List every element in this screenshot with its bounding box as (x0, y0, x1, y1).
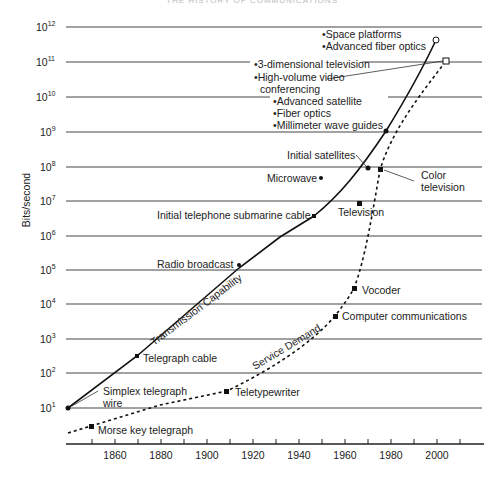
label-radio-broadcast: Radio broadcast (157, 258, 234, 270)
y-axis-labels: 1012 1011 1010 109 108 107 106 105 104 1… (36, 20, 56, 414)
svg-text:1860: 1860 (103, 449, 127, 461)
svg-text:104: 104 (40, 297, 56, 310)
svg-text:1920: 1920 (241, 449, 265, 461)
x-axis-labels: 1860 1880 1900 1920 1940 1960 1980 2000 (103, 449, 449, 461)
label-morse: Morse key telegraph (98, 424, 193, 436)
label-television-2: television (421, 181, 465, 193)
svg-text:1011: 1011 (36, 55, 55, 68)
label-fiber-optics: •Fiber optics (273, 107, 331, 119)
svg-text:101: 101 (40, 401, 56, 414)
transmission-capability-curve (68, 40, 436, 408)
svg-text:2000: 2000 (425, 449, 449, 461)
svg-text:1880: 1880 (149, 449, 173, 461)
svg-text:1940: 1940 (287, 449, 311, 461)
label-submarine-cable: Initial telephone submarine cable (157, 209, 311, 221)
label-initial-satellites: Initial satellites (287, 149, 355, 161)
label-microwave: Microwave (267, 172, 317, 184)
label-conferencing: conferencing (260, 83, 320, 95)
service-demand-curve (68, 61, 446, 433)
svg-text:103: 103 (40, 332, 56, 345)
chart: 1012 1011 1010 109 108 107 106 105 104 1… (0, 0, 504, 480)
label-computer-comms: Computer communications (342, 310, 467, 322)
svg-text:1960: 1960 (333, 449, 357, 461)
label-advanced-fiber: •Advanced fiber optics (322, 40, 426, 52)
svg-text:107: 107 (40, 194, 56, 207)
label-millimeter: •Millimeter wave guides (273, 119, 383, 131)
label-space-platforms: •Space platforms (322, 28, 402, 40)
svg-text:1012: 1012 (36, 20, 56, 33)
label-television: Television (338, 206, 384, 218)
svg-text:105: 105 (40, 263, 56, 276)
label-hv-video: •High-volume video (254, 71, 345, 83)
svg-text:102: 102 (40, 366, 56, 379)
svg-text:108: 108 (40, 160, 56, 173)
label-service-demand: Service Demand (250, 321, 323, 371)
label-simplex-2: wire (102, 397, 122, 409)
label-advanced-satellite: •Advanced satellite (273, 95, 362, 107)
svg-text:1900: 1900 (195, 449, 219, 461)
label-color: Color (421, 169, 447, 181)
label-vocoder: Vocoder (362, 284, 401, 296)
svg-text:1010: 1010 (36, 90, 56, 103)
label-teletypewriter: Teletypewriter (235, 386, 300, 398)
label-simplex-1: Simplex telegraph (103, 385, 187, 397)
label-transmission-capability: Transmission Capability (148, 271, 245, 348)
svg-text:106: 106 (40, 229, 56, 242)
label-telegraph-cable: Telegraph cable (143, 352, 217, 364)
x-axis (66, 439, 484, 444)
label-3d-tv: •3-dimensional television (254, 58, 370, 70)
svg-text:109: 109 (40, 125, 56, 138)
y-axis-title: Bits/second (20, 173, 32, 227)
annotations: •Space platforms •Advanced fiber optics … (98, 28, 467, 436)
svg-text:1980: 1980 (379, 449, 403, 461)
